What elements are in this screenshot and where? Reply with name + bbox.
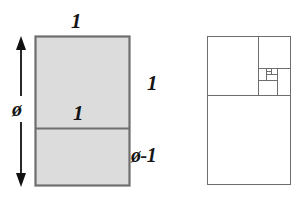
arrow-head-up [16, 36, 26, 50]
golden-ratio-figure: 1 1 1 ø ø-1 [0, 0, 301, 199]
label-square-base: 1 [73, 103, 84, 124]
diagram-canvas [0, 0, 301, 199]
arrow-head-down [16, 173, 26, 187]
right-diagram-group [208, 37, 291, 185]
label-total-height-phi: ø [12, 99, 22, 119]
label-square-side: 1 [147, 73, 158, 94]
label-top-width: 1 [71, 11, 82, 32]
label-lower-rect-height: ø-1 [131, 145, 156, 165]
nested-outer-rectangle [208, 37, 291, 185]
